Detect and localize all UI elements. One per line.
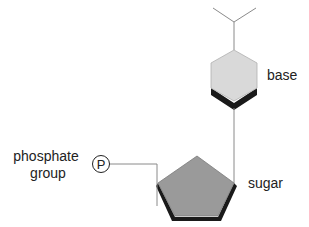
sugar-pentagon xyxy=(156,156,237,221)
base-label: base xyxy=(267,67,298,83)
base-branch-lines xyxy=(213,8,256,50)
phosphate-label-line1: phosphate xyxy=(13,148,79,164)
phosphate-symbol: P xyxy=(97,157,106,172)
base-hexagon xyxy=(211,50,257,110)
sugar-label: sugar xyxy=(248,175,283,191)
phosphate-sugar-bond xyxy=(110,164,157,206)
phosphate-label-line2: group xyxy=(30,165,66,181)
nucleotide-diagram: P base sugar phosphate group xyxy=(0,0,309,227)
phosphate-circle: P xyxy=(93,156,110,173)
